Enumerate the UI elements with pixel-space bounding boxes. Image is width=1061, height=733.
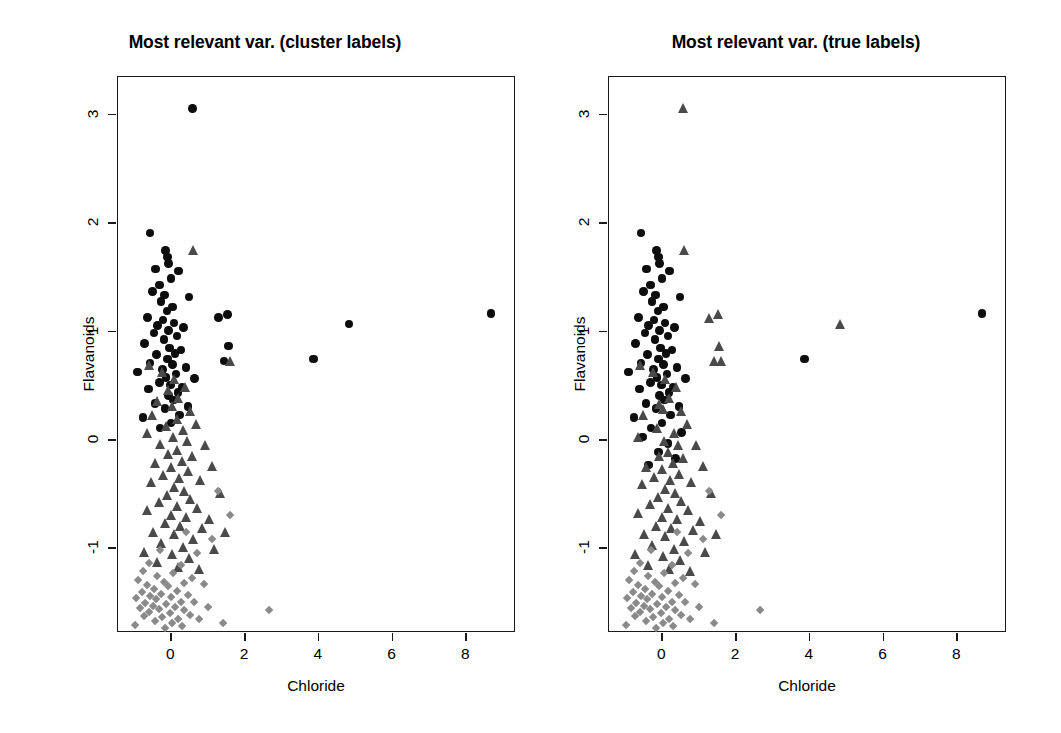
data-point-triangle — [835, 319, 845, 329]
plot-area-cluster — [117, 76, 515, 632]
data-point-diamond — [671, 579, 680, 588]
data-point-circle — [179, 323, 188, 332]
data-point-diamond — [132, 594, 141, 603]
data-point-circle — [642, 265, 651, 274]
data-point-circle — [214, 313, 223, 322]
data-point-triangle — [154, 497, 164, 507]
data-point-triangle — [197, 523, 207, 533]
data-point-triangle — [652, 423, 662, 433]
data-point-circle — [665, 267, 674, 276]
data-point-triangle — [698, 461, 708, 471]
x-tick — [392, 633, 394, 641]
y-tick — [599, 547, 607, 549]
data-point-diamond — [623, 594, 632, 603]
data-point-circle — [662, 349, 671, 358]
data-point-diamond — [187, 573, 196, 582]
data-point-triangle — [188, 534, 198, 544]
x-tick — [661, 633, 663, 641]
data-point-triangle — [676, 406, 686, 416]
data-point-circle — [223, 310, 232, 319]
data-point-triangle — [167, 401, 177, 411]
data-point-diamond — [686, 615, 695, 624]
y-tick — [108, 222, 116, 224]
data-point-triangle — [669, 428, 679, 438]
y-tick-label: 2 — [575, 212, 593, 232]
data-point-triangle — [658, 404, 668, 414]
data-point-triangle — [187, 451, 197, 461]
data-point-triangle — [160, 518, 170, 528]
data-point-circle — [676, 293, 685, 302]
data-point-circle — [648, 297, 657, 306]
data-point-diamond — [695, 603, 704, 612]
data-point-triangle — [638, 410, 648, 420]
x-tick — [244, 633, 246, 641]
data-point-triangle — [709, 356, 719, 366]
x-tick — [465, 633, 467, 641]
data-point-diamond — [190, 597, 199, 606]
x-tick — [318, 633, 320, 641]
data-point-triangle — [633, 508, 643, 518]
data-point-triangle — [654, 451, 664, 461]
data-point-triangle — [192, 503, 202, 513]
data-point-diamond — [195, 615, 204, 624]
data-point-triangle — [633, 432, 643, 442]
y-tick-label: -1 — [575, 537, 593, 557]
x-tick — [956, 633, 958, 641]
x-tick — [735, 633, 737, 641]
data-point-triangle — [664, 393, 674, 403]
data-point-triangle — [711, 529, 721, 539]
x-tick — [883, 633, 885, 641]
data-point-triangle — [148, 527, 158, 537]
data-point-triangle — [161, 421, 171, 431]
data-point-triangle — [685, 566, 695, 576]
data-point-diamond — [178, 622, 187, 631]
data-point-triangle — [169, 374, 179, 384]
data-point-triangle — [209, 544, 219, 554]
data-point-diamond — [167, 593, 176, 602]
data-point-circle — [635, 385, 644, 394]
y-tick-label: 0 — [84, 429, 102, 449]
data-point-triangle — [155, 439, 165, 449]
data-point-triangle — [163, 449, 173, 459]
data-point-diamond — [184, 591, 193, 600]
data-point-diamond — [134, 576, 143, 585]
data-point-diamond — [652, 623, 661, 632]
y-tick-label: 2 — [84, 212, 102, 232]
data-point-triangle — [167, 549, 177, 559]
data-point-circle — [174, 267, 183, 276]
data-point-triangle — [142, 505, 152, 515]
data-point-circle — [160, 335, 169, 344]
data-point-circle — [658, 274, 667, 283]
data-point-diamond — [625, 576, 634, 585]
data-point-diamond — [161, 623, 170, 632]
data-point-triangle — [220, 527, 230, 537]
data-point-triangle — [668, 458, 678, 468]
data-point-circle — [673, 363, 682, 372]
data-point-triangle — [637, 479, 647, 489]
data-point-triangle — [671, 382, 681, 392]
data-point-triangle — [635, 360, 645, 370]
x-tick-label: 0 — [657, 645, 666, 663]
data-point-circle — [152, 350, 161, 359]
data-point-triangle — [225, 356, 235, 366]
data-point-triangle — [714, 341, 724, 351]
x-tick — [809, 633, 811, 641]
y-tick-label: 3 — [575, 104, 593, 124]
data-point-diamond — [164, 582, 173, 591]
data-point-triangle — [180, 382, 190, 392]
y-tick — [108, 331, 116, 333]
data-point-triangle — [178, 425, 188, 435]
data-point-triangle — [704, 313, 714, 323]
y-axis-title: Flavanoids — [80, 304, 98, 404]
data-point-triangle — [651, 521, 661, 531]
data-point-diamond — [655, 582, 664, 591]
data-point-circle — [190, 374, 199, 383]
data-point-circle — [150, 329, 159, 338]
data-point-diamond — [200, 580, 209, 589]
data-point-circle — [148, 287, 157, 296]
data-point-circle — [630, 413, 639, 422]
data-point-circle — [654, 307, 663, 316]
data-point-triangle — [194, 564, 204, 574]
data-point-diamond — [644, 571, 653, 580]
data-point-diamond — [698, 534, 707, 543]
